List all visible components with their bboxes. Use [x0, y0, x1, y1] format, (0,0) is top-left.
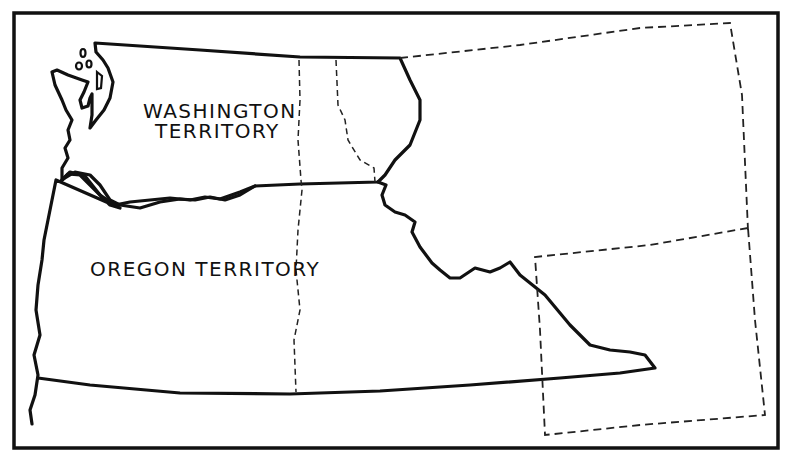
washington-label-line2: TERRITORY — [154, 119, 280, 143]
southeast-extension-border — [535, 228, 765, 435]
island — [76, 63, 82, 70]
oregon-label: OREGON TERRITORY — [90, 257, 320, 281]
internal-boundary-dashed — [336, 60, 375, 182]
island — [87, 61, 92, 68]
map-frame — [14, 13, 778, 448]
map-canvas: WASHINGTON TERRITORY OREGON TERRITORY — [0, 0, 789, 467]
historical-territory-map: WASHINGTON TERRITORY OREGON TERRITORY — [0, 0, 789, 467]
island — [97, 72, 102, 89]
island — [81, 49, 86, 57]
oregon-territory-border — [30, 174, 655, 424]
northeast-extension-border — [400, 23, 748, 230]
